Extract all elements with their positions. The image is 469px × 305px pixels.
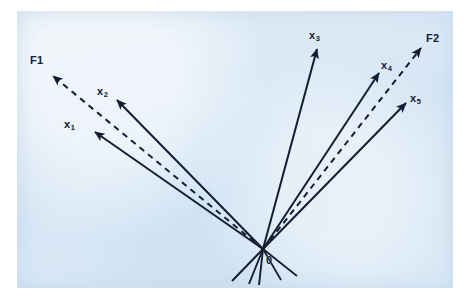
figure-container: F1 F2 x1 x2 x3 x4 x5 0 <box>0 0 469 305</box>
label-origin-text: 0 <box>266 254 272 266</box>
label-origin: 0 <box>266 254 272 266</box>
vector-x3 <box>263 49 317 249</box>
label-x2: x2 <box>97 85 108 99</box>
vector-f1 <box>53 76 263 249</box>
origin-tails <box>232 249 297 285</box>
label-x3-text: x <box>309 29 315 41</box>
label-x1-text: x <box>64 118 70 130</box>
label-x3: x3 <box>309 29 320 43</box>
label-x4-subscript: 4 <box>388 64 392 73</box>
label-x1-subscript: 1 <box>71 123 75 132</box>
factor-axes <box>53 48 421 249</box>
vector-diagram-svg <box>0 0 469 305</box>
label-f1: F1 <box>30 54 43 66</box>
label-f2-text: F2 <box>426 32 439 44</box>
label-x2-subscript: 2 <box>104 90 108 99</box>
label-x5: x5 <box>410 92 421 106</box>
vector-x2 <box>117 100 263 249</box>
vector-x5 <box>263 103 406 249</box>
vector-x1 <box>95 132 263 249</box>
label-x5-text: x <box>410 92 416 104</box>
label-x5-subscript: 5 <box>417 97 421 106</box>
label-x2-text: x <box>97 85 103 97</box>
tail-left <box>232 249 263 281</box>
vector-x4 <box>263 73 379 249</box>
label-x4-text: x <box>381 59 387 71</box>
vector-f2 <box>263 48 421 249</box>
label-x3-subscript: 3 <box>316 34 320 43</box>
label-f2: F2 <box>426 32 439 44</box>
label-x4: x4 <box>381 59 392 73</box>
label-f1-text: F1 <box>30 54 43 66</box>
label-x1: x1 <box>64 118 75 132</box>
